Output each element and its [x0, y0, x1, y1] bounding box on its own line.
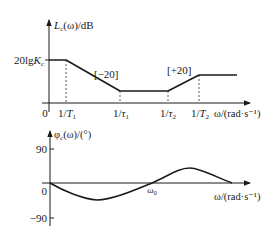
magnitude-plot: Lc(ω)/dB 20lgKc [−20] [+20] 0 1/T1 1/τ1 … — [14, 19, 261, 121]
phase-tick-label-minus-90: −90 — [30, 212, 48, 224]
bode-diagram: Lc(ω)/dB 20lgKc [−20] [+20] 0 1/T1 1/τ1 … — [0, 0, 276, 237]
phase-tick-label-90: 90 — [36, 143, 48, 155]
crossing-frequency-label: ω0 — [147, 185, 156, 196]
phase-x-axis-label: ω/(rad·s⁻¹) — [214, 191, 261, 203]
phase-curve — [50, 168, 232, 200]
slope-label-minus-20: [−20] — [94, 68, 119, 80]
tick-label-1-tau1: 1/τ1 — [113, 107, 130, 121]
gain-level-label: 20lgKc — [14, 54, 44, 68]
tick-label-1-T2: 1/T2 — [191, 107, 210, 121]
tick-label-1-tau2: 1/τ2 — [160, 107, 177, 121]
magnitude-asymptote — [49, 60, 237, 91]
magnitude-y-axis-label: Lc(ω)/dB — [53, 19, 94, 33]
magnitude-x-axis-label: ω/(rad·s⁻¹) — [214, 108, 261, 120]
phase-plot: 90 0 −90 φc(ω)/(°) ω0 ω/(rad·s⁻¹) — [30, 129, 261, 226]
tick-label-1-T1: 1/T1 — [58, 107, 77, 121]
slope-label-plus-20: [+20] — [167, 64, 192, 76]
origin-label: 0 — [42, 107, 48, 119]
phase-y-axis-label: φc(ω)/(°) — [54, 129, 92, 142]
phase-tick-label-0: 0 — [42, 185, 48, 197]
